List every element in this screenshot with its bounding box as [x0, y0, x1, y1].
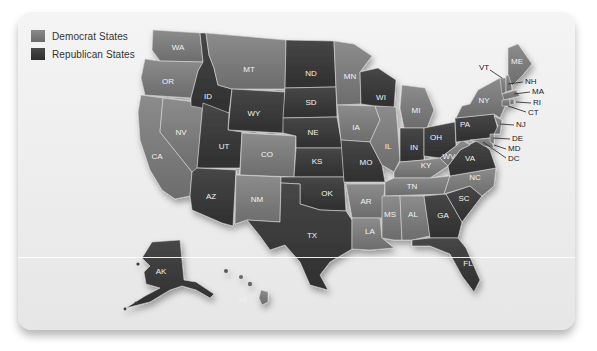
state-label-SC: SC: [458, 194, 469, 203]
callout-label-MA: MA: [532, 87, 545, 96]
state-CT[interactable]: [502, 99, 510, 106]
ak-island-1: [136, 262, 139, 265]
ak-island-3: [124, 308, 127, 311]
state-label-WI: WI: [376, 93, 386, 102]
state-label-NV: NV: [175, 128, 187, 137]
state-label-WV: WV: [443, 152, 457, 161]
state-HI[interactable]: [259, 290, 268, 305]
state-label-NM: NM: [251, 195, 264, 204]
leader-line-MD: [494, 145, 506, 149]
state-label-MO: MO: [360, 158, 373, 167]
state-label-MT: MT: [243, 65, 255, 74]
state-label-AK: AK: [156, 267, 167, 276]
callout-label-RI: RI: [533, 98, 541, 107]
state-label-MS: MS: [384, 210, 396, 219]
leader-line-CT: [508, 106, 526, 112]
state-label-OK: OK: [321, 189, 333, 198]
state-label-ID: ID: [204, 92, 212, 101]
callout-label-DC: DC: [508, 154, 520, 163]
leader-line-RI: [516, 102, 531, 103]
state-label-AZ: AZ: [206, 192, 216, 201]
state-label-UT: UT: [219, 142, 230, 151]
ak-island-2: [135, 302, 138, 305]
state-label-TN: TN: [407, 182, 418, 191]
state-label-IL: IL: [385, 142, 392, 151]
callout-label-NJ: NJ: [516, 120, 526, 129]
callout-label-MD: MD: [508, 144, 521, 153]
state-MT[interactable]: [206, 33, 286, 89]
state-label-MN: MN: [344, 72, 357, 81]
state-label-NY: NY: [478, 96, 490, 105]
state-label-AR: AR: [360, 197, 371, 206]
state-label-OR: OR: [162, 77, 174, 86]
callout-label-VT: VT: [479, 63, 489, 72]
callout-label-CT: CT: [528, 108, 539, 117]
state-shapes: [124, 30, 532, 310]
state-DE[interactable]: [490, 134, 494, 144]
state-label-HI: HI: [239, 295, 247, 304]
state-label-PA: PA: [460, 120, 471, 129]
state-label-KS: KS: [312, 157, 323, 166]
state-label-IA: IA: [352, 123, 360, 132]
state-label-MI: MI: [412, 106, 421, 115]
state-label-WY: WY: [248, 109, 262, 118]
state-label-TX: TX: [307, 231, 318, 240]
state-label-FL: FL: [463, 259, 473, 268]
glass-sheen: [18, 257, 575, 258]
hi-island-1: [224, 269, 228, 273]
leader-line-VT: [490, 70, 502, 78]
state-label-CO: CO: [261, 150, 273, 159]
state-label-SD: SD: [305, 98, 316, 107]
state-label-WA: WA: [172, 43, 185, 52]
leader-line-DE: [493, 138, 510, 139]
state-label-GA: GA: [437, 211, 449, 220]
state-label-KY: KY: [421, 161, 432, 170]
leader-line-NJ: [500, 124, 514, 125]
state-label-ND: ND: [305, 69, 317, 78]
state-label-VA: VA: [465, 154, 476, 163]
callout-label-NH: NH: [525, 77, 537, 86]
state-ND[interactable]: [285, 40, 336, 88]
state-label-AL: AL: [408, 210, 418, 219]
state-TN[interactable]: [385, 176, 450, 196]
state-label-NE: NE: [307, 128, 318, 137]
state-label-NC: NC: [469, 173, 481, 182]
state-label-IN: IN: [410, 143, 418, 152]
hi-island-3: [248, 282, 252, 286]
state-RI[interactable]: [510, 99, 514, 105]
state-label-CA: CA: [151, 152, 163, 161]
state-label-LA: LA: [365, 227, 375, 236]
state-label-ME: ME: [511, 57, 523, 66]
hi-island-2: [239, 275, 243, 279]
callout-label-DE: DE: [512, 134, 523, 143]
us-map: WAORCANVIDMTWYUTCOAZNMNDSDNEKSOKTXMNIAMO…: [0, 0, 597, 351]
state-label-OH: OH: [430, 133, 442, 142]
state-AK[interactable]: [126, 240, 214, 308]
